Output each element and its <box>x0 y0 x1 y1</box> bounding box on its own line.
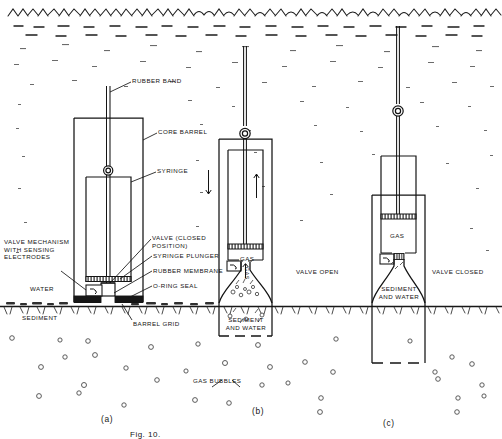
water-surface-waves <box>8 9 501 36</box>
label-rubber-membrane: RUBBER MEMBRANE <box>153 267 223 275</box>
panel-c-lifting-ring <box>393 106 403 116</box>
panel-c-valve-mechanism-box <box>380 254 394 264</box>
panel-b-ascent-arrow <box>254 174 259 198</box>
panel-a-rubber-band <box>107 86 111 284</box>
panel-c-valve-closed-plug <box>394 254 404 260</box>
panel-b-syringe-plunger <box>228 244 263 249</box>
panel-b-valve-mechanism-box <box>227 261 241 271</box>
panel-a-valve-mechanism-box <box>86 285 102 296</box>
label-rubber-band: RUBBER BAND <box>132 77 182 85</box>
label-sediment-and-water-panel-b: SEDIMENT AND WATER <box>216 316 276 331</box>
label-gas-vertical-panel-b: GAS <box>244 267 250 280</box>
label-gas-panel-c: GAS <box>390 232 404 240</box>
panel-b-lifting-ring <box>240 128 250 138</box>
label-sediment: SEDIMENT <box>22 314 58 322</box>
figure-caption: Fig. 10. <box>130 430 161 439</box>
panel-c-syringe-body <box>381 156 416 219</box>
panel-b-descent-arrow <box>206 170 211 194</box>
panel-c-plunger-rod <box>397 116 400 219</box>
panel-caption-a: (a) <box>101 414 113 424</box>
label-valve-open: VALVE OPEN <box>296 268 339 276</box>
panel-c-syringe-plunger <box>381 214 416 219</box>
panel-a-o-ring-seal-left <box>74 296 101 303</box>
label-syringe-plunger: SYRINGE PLUNGER <box>153 252 219 260</box>
diagram-svg <box>0 0 502 439</box>
label-water: WATER <box>30 285 54 293</box>
panel-a-syringe-body <box>86 177 131 282</box>
panel-b-apparatus <box>206 46 272 336</box>
panel-caption-b: (b) <box>252 406 264 416</box>
gas-bubbles-field <box>10 336 486 415</box>
panel-a-valve-housing <box>101 283 115 296</box>
label-core-barrel: CORE BARREL <box>158 128 207 136</box>
panel-b-syringe-body <box>228 150 263 249</box>
label-o-ring-seal: O-RING SEAL <box>153 282 198 290</box>
panel-a-band-ring <box>104 166 113 175</box>
panel-b-plunger-rod <box>244 138 247 249</box>
label-sediment-and-water-panel-c: SEDIMENT AND WATER <box>368 285 430 300</box>
leader-core-barrel <box>143 133 157 140</box>
label-gas-bubbles: GAS BUBBLES <box>193 377 241 385</box>
callout-leader-lines <box>61 82 240 387</box>
panel-caption-c: (c) <box>383 418 395 428</box>
label-syringe: SYRINGE <box>157 167 188 175</box>
sediment-bed-line <box>0 302 502 314</box>
label-barrel-grid: BARREL GRID <box>133 320 180 328</box>
panel-c-suspension-wire <box>397 26 400 104</box>
panel-a-core-barrel <box>74 118 143 302</box>
label-gas-panel-b: GAS <box>240 255 254 263</box>
figure-canvas: RUBBER BAND CORE BARREL SYRINGE VALVE ME… <box>0 0 502 439</box>
label-valve-mechanism: VALVE MECHANISM WITH SENSING ELECTRODES <box>4 238 69 261</box>
label-valve-closed-position: VALVE (CLOSED POSITION) <box>152 234 206 249</box>
panel-a-o-ring-seal-right <box>115 296 143 303</box>
panel-a-syringe-plunger <box>86 277 131 282</box>
panel-b-suspension-wire <box>244 46 247 126</box>
label-valve-closed: VALVE CLOSED <box>432 268 484 276</box>
